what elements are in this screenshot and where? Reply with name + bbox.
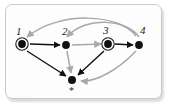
node-4[interactable] [135,41,143,49]
graph-canvas [0,0,171,110]
node-2-label: 2 [62,26,68,37]
node-3[interactable] [104,40,112,48]
edge-4-to-star [81,51,136,81]
edge-3-to-4 [115,44,133,45]
node-2[interactable] [62,41,70,49]
edge-2-to-3 [72,44,101,45]
edge-2-to-star [67,51,71,73]
edge-4-to-1 [27,18,136,37]
node-star[interactable] [68,76,76,84]
screenshot-root: 1 2 3 4 * [0,0,171,110]
node-1-label: 1 [16,26,22,37]
node-3-label: 3 [103,25,109,36]
node-star-label: * [69,86,74,96]
edge-1-to-star [27,51,66,76]
node-4-label: 4 [140,25,146,36]
edge-3-to-star [78,51,104,75]
node-1[interactable] [18,40,26,48]
edge-1-to-2 [30,44,60,45]
